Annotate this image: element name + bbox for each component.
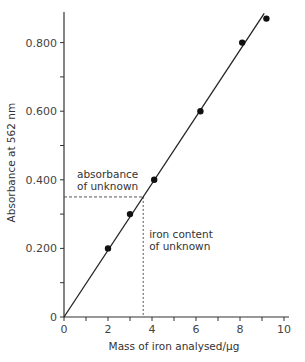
x-tick-label: 2: [105, 323, 112, 336]
data-point: [105, 245, 111, 251]
data-point: [197, 108, 203, 114]
x-tick-label: 8: [237, 323, 244, 336]
y-tick-label: 0.800: [26, 37, 58, 50]
absorbance-annotation: of unknown: [77, 180, 138, 192]
y-axis-title: Absorbance at 562 nm: [5, 103, 17, 223]
absorbance-annotation: absorbance: [77, 168, 138, 180]
best-fit-line: [64, 13, 264, 317]
iron-content-annotation: iron content: [149, 228, 213, 240]
x-tick-label: 6: [193, 323, 200, 336]
y-tick-label: 0.200: [26, 242, 58, 255]
data-point: [239, 39, 245, 45]
data-point: [151, 177, 157, 183]
data-point: [263, 15, 269, 21]
x-tick-label: 10: [277, 323, 291, 336]
x-tick-label: 4: [149, 323, 156, 336]
y-tick-label: 0: [50, 311, 57, 324]
y-tick-label: 0.400: [26, 174, 58, 187]
iron-content-annotation: of unknown: [149, 240, 210, 252]
calibration-chart: 024681000.2000.4000.6000.800Mass of iron…: [0, 0, 305, 362]
x-tick-label: 0: [61, 323, 68, 336]
y-tick-label: 0.600: [26, 105, 58, 118]
x-axis-title: Mass of iron analysed/µg: [109, 340, 240, 352]
data-point: [127, 211, 133, 217]
